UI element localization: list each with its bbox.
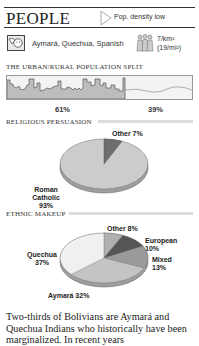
religion-label-catholic-line1: Roman <box>27 186 65 194</box>
body-paragraph: Two-thirds of Bolivians are Aymará and Q… <box>6 311 198 346</box>
density-imperial: (19/mi²) <box>157 44 181 51</box>
ethnic-heading-rule <box>69 212 193 215</box>
ethnic-label-aymara: Aymará 32% <box>48 292 89 300</box>
ethnic-label-mixed-line2: 13% <box>152 264 172 272</box>
ethnic-label-quechua: Quechua 37% <box>26 251 58 267</box>
rural-percent: 39% <box>148 105 163 114</box>
density-label: Pop. density low <box>114 13 165 20</box>
religion-pie-chart <box>58 138 150 196</box>
header-rule-top <box>4 7 195 8</box>
ethnic-label-mixed-line1: Mixed <box>152 256 172 264</box>
speaking-head-icon <box>7 35 25 51</box>
arrow-right-outline-icon <box>99 10 113 26</box>
urban-rural-heading: THE URBAN/RURAL POPULATION SPLIT <box>6 63 143 71</box>
ethnic-label-mixed: Mixed 13% <box>152 256 172 272</box>
ethnic-heading: ETHNIC MAKEUP <box>6 210 66 218</box>
ethnic-label-quechua-line2: 37% <box>26 259 58 267</box>
ethnic-label-quechua-line1: Quechua <box>26 251 58 259</box>
ethnic-pie-chart <box>58 232 150 290</box>
religion-label-catholic-line2: Catholic 93% <box>27 194 65 210</box>
religion-label-catholic: Roman Catholic 93% <box>27 186 65 210</box>
religion-label-other: Other 7% <box>112 130 143 138</box>
religion-heading: RELIGIOUS PERSUASION <box>6 118 92 126</box>
density-metric: 7/km² <box>157 35 175 42</box>
urban-percent: 61% <box>55 105 70 114</box>
page-title: PEOPLE <box>6 9 70 29</box>
religion-heading-rule <box>98 120 193 123</box>
people-group-icon <box>135 33 155 53</box>
languages-label: Aymará, Quechua, Spanish <box>32 39 124 48</box>
header-rule-bottom <box>4 27 195 28</box>
urban-rural-chart <box>6 75 193 100</box>
urban-rural-graphic <box>7 76 192 99</box>
